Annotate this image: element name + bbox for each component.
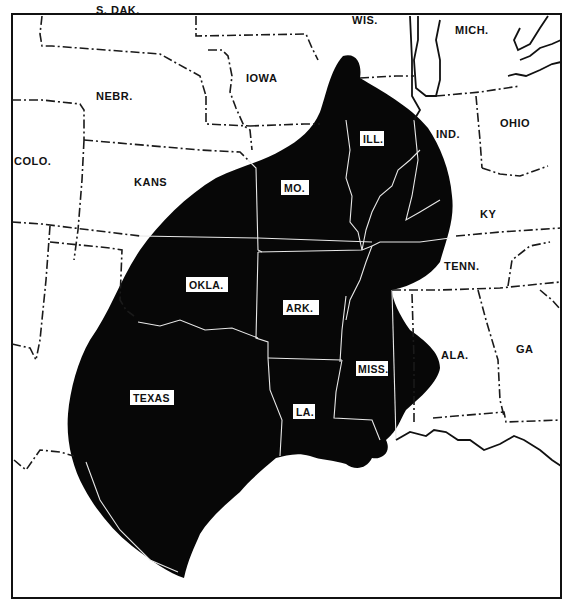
label-ohio: OHIO (500, 117, 530, 129)
label-mo-box: MO. (281, 180, 309, 195)
label-ill: ILL. (363, 133, 383, 145)
label-mich: MICH. (455, 24, 489, 36)
range-map: S. DAK. WIS. MICH. NEBR. IOWA COLO. KANS… (0, 0, 574, 606)
label-colo: COLO. (14, 155, 51, 167)
label-ind: IND. (436, 128, 460, 140)
gulf-coastline (396, 430, 561, 466)
label-la: LA. (296, 406, 314, 418)
label-texas: TEXAS (133, 392, 170, 404)
label-miss: MISS. (358, 363, 389, 375)
label-ala: ALA. (441, 349, 469, 361)
label-okla: OKLA. (189, 279, 224, 291)
label-ga: GA (516, 343, 534, 355)
label-kans: KANS (134, 176, 167, 188)
label-okla-box: OKLA. (186, 277, 228, 292)
shaded-range (68, 55, 453, 578)
label-miss-box: MISS. (356, 361, 389, 376)
label-iowa: IOWA (246, 72, 277, 84)
label-ark-box: ARK. (283, 300, 319, 315)
label-tenn: TENN. (444, 260, 480, 272)
label-nebr: NEBR. (96, 90, 133, 102)
label-ky: KY (480, 208, 496, 220)
label-ark: ARK. (286, 302, 313, 314)
label-ill-box: ILL. (360, 131, 384, 146)
label-wis: WIS. (352, 14, 378, 26)
label-mo: MO. (284, 182, 305, 194)
label-la-box: LA. (293, 404, 315, 419)
label-texas-box: TEXAS (130, 390, 174, 405)
label-sdak: S. DAK. (96, 4, 140, 16)
